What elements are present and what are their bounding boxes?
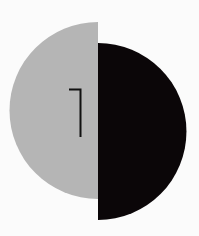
gray-half-circle bbox=[10, 22, 99, 199]
black-half-circle bbox=[98, 43, 186, 220]
split-circle-artwork bbox=[0, 0, 199, 236]
